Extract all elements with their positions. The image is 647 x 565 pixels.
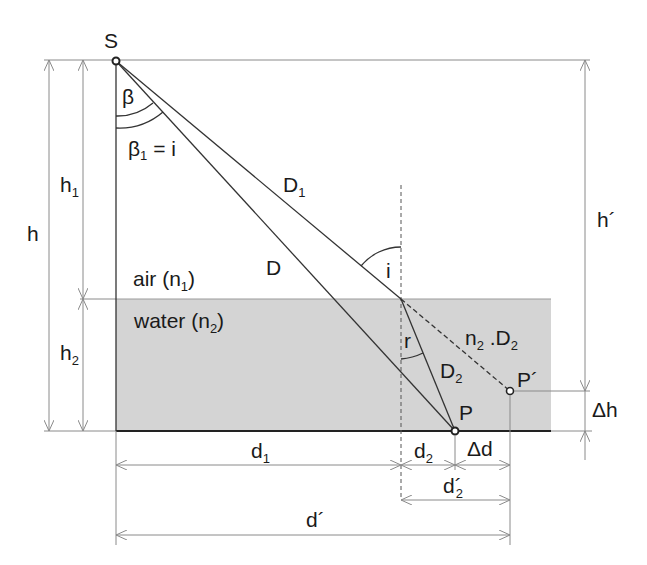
label-d1: d1: [251, 439, 270, 466]
label-i: i: [386, 259, 391, 282]
label-d-prime: d´: [306, 508, 325, 531]
arc-i: [361, 247, 401, 266]
refraction-diagram: S β β1 = i h h1 h2 h´ Δh D1 D i air (n1)…: [0, 0, 647, 565]
label-h1: h1: [60, 173, 79, 200]
ray-D1: [116, 61, 401, 299]
label-h2: h2: [60, 341, 79, 368]
point-P: [452, 428, 459, 435]
label-d2: d2: [414, 439, 433, 466]
label-P-prime: P´: [517, 368, 538, 391]
arc-beta1: [116, 112, 163, 128]
label-r: r: [404, 329, 411, 352]
label-D1: D1: [283, 173, 305, 200]
label-d2-prime: d´2: [443, 474, 463, 501]
label-n2D2: n2 .D2: [465, 326, 518, 353]
label-beta: β: [122, 85, 134, 108]
label-air: air (n1): [133, 267, 195, 294]
label-S: S: [104, 29, 118, 52]
label-beta1: β1 = i: [128, 137, 176, 163]
label-delta-h: Δh: [592, 398, 618, 421]
label-P: P: [459, 401, 473, 424]
label-h: h: [27, 222, 39, 245]
label-D: D: [266, 256, 281, 279]
label-h-prime: h´: [597, 208, 616, 231]
point-S: [113, 58, 120, 65]
label-delta-d: Δd: [467, 437, 493, 460]
point-P-prime: [507, 388, 514, 395]
